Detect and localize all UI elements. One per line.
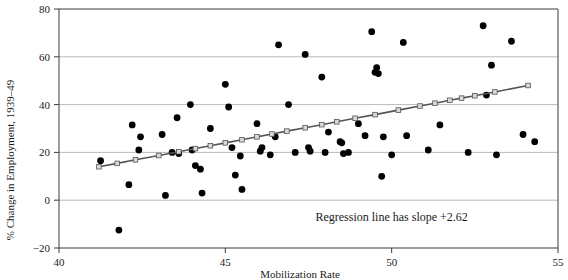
scatter-point <box>372 69 379 76</box>
scatter-point <box>302 51 309 58</box>
regression-line-marker <box>285 129 290 134</box>
scatter-point <box>493 151 500 158</box>
x-axis-title: Mobilization Rate <box>260 268 340 280</box>
regression-line-marker <box>193 146 198 151</box>
regression-line-marker <box>157 153 162 158</box>
regression-slope-annotation: Regression line has slope +2.62 <box>315 210 467 224</box>
scatter-point <box>222 81 229 88</box>
scatter-point <box>437 122 444 129</box>
scatter-point <box>267 151 274 158</box>
scatter-point <box>388 151 395 158</box>
scatter-point <box>237 153 244 160</box>
scatter-point <box>322 149 329 156</box>
scatter-point <box>465 149 472 156</box>
regression-line-marker <box>418 104 423 109</box>
y-axis-title: % Change in Employment, 1939–49 <box>4 79 16 240</box>
scatter-point <box>400 39 407 46</box>
scatter-point <box>159 131 166 138</box>
y-tick-label: 0 <box>45 194 51 206</box>
scatter-point <box>174 114 181 121</box>
regression-line-marker <box>353 116 358 121</box>
regression-line-marker <box>526 83 531 88</box>
scatter-point <box>129 122 136 129</box>
y-tick-label: 20 <box>39 146 51 158</box>
regression-line-marker <box>373 112 378 117</box>
scatter-point <box>520 131 527 138</box>
scatter-point <box>362 132 369 139</box>
scatter-point <box>207 125 214 132</box>
scatter-point <box>239 186 246 193</box>
y-tick-label: 40 <box>39 99 51 111</box>
scatter-point <box>345 149 352 156</box>
regression-line-marker <box>448 98 453 103</box>
scatter-plot-figure: −20020406080 40455055 Regression line ha… <box>0 0 568 280</box>
scatter-point <box>488 62 495 69</box>
regression-line-marker <box>459 96 464 101</box>
regression-line-marker <box>473 93 478 98</box>
scatter-point <box>275 41 282 48</box>
scatter-point <box>355 120 362 127</box>
scatter-point <box>115 227 122 234</box>
x-tick-label: 40 <box>54 256 66 268</box>
scatter-point <box>232 172 239 179</box>
regression-line-marker <box>270 132 275 137</box>
scatter-point <box>199 190 206 197</box>
scatter-point <box>307 148 314 155</box>
regression-line-marker <box>240 137 245 142</box>
scatter-point <box>508 38 515 45</box>
scatter-point <box>257 148 264 155</box>
plot-background <box>0 0 568 280</box>
scatter-point <box>531 138 538 145</box>
scatter-point <box>229 144 236 151</box>
regression-line-marker <box>208 143 213 148</box>
scatter-point <box>187 101 194 108</box>
scatter-point <box>378 173 385 180</box>
scatter-point <box>425 147 432 154</box>
scatter-point <box>285 101 292 108</box>
scatter-point <box>125 181 132 188</box>
scatter-point <box>137 133 144 140</box>
x-tick-label: 55 <box>553 256 565 268</box>
scatter-point <box>380 133 387 140</box>
scatter-point <box>254 120 261 127</box>
regression-line-marker <box>97 164 102 169</box>
scatter-point <box>403 132 410 139</box>
regression-line-marker <box>492 90 497 95</box>
x-tick-label: 45 <box>220 256 232 268</box>
regression-line-marker <box>303 125 308 130</box>
scatter-point <box>162 192 169 199</box>
regression-line-marker <box>396 108 401 113</box>
chart-annotations: Regression line has slope +2.62 <box>315 210 467 224</box>
regression-line-marker <box>133 158 138 163</box>
scatter-point <box>225 104 232 111</box>
regression-line-marker <box>176 149 181 154</box>
scatter-point <box>97 157 104 164</box>
scatter-point <box>368 28 375 35</box>
regression-line-marker <box>255 135 260 140</box>
y-tick-label: 60 <box>39 51 51 63</box>
scatter-point <box>480 22 487 29</box>
chart-canvas: −20020406080 40455055 Regression line ha… <box>0 0 568 280</box>
scatter-point <box>338 139 345 146</box>
scatter-point <box>318 74 325 81</box>
regression-line-marker <box>223 141 228 146</box>
scatter-point <box>325 129 332 136</box>
scatter-point <box>197 166 204 173</box>
scatter-point <box>135 147 142 154</box>
regression-line-marker <box>334 120 339 125</box>
x-tick-label: 50 <box>386 256 398 268</box>
regression-line-marker <box>320 122 325 127</box>
y-tick-label: −20 <box>33 242 51 254</box>
regression-line-marker <box>115 161 120 166</box>
regression-line-marker <box>433 101 438 106</box>
scatter-point <box>292 149 299 156</box>
y-tick-label: 80 <box>39 3 51 15</box>
